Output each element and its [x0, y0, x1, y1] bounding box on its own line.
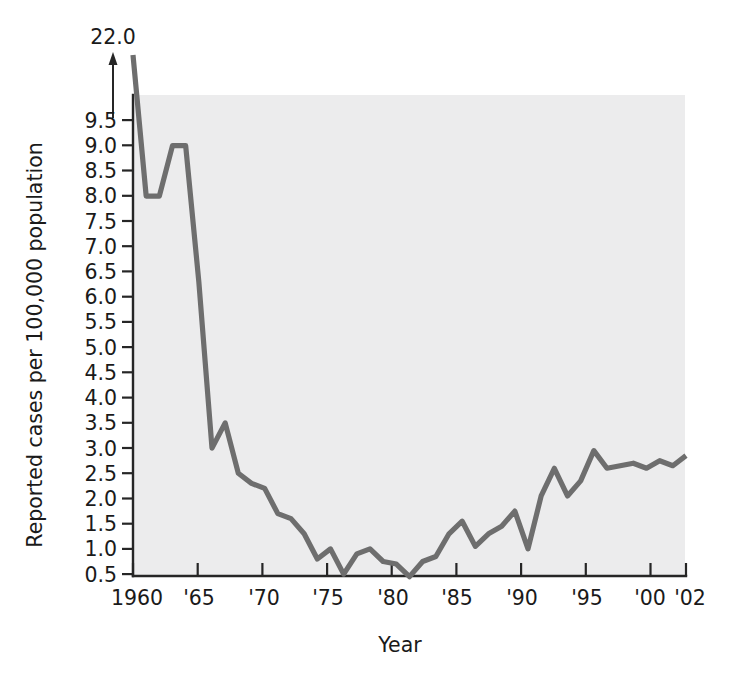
- y-tick-label: 1.5: [84, 512, 117, 536]
- y-tick-label: 0.5: [84, 563, 117, 587]
- x-tick-label: '02: [674, 586, 706, 610]
- y-tick-label: 2.5: [84, 462, 117, 486]
- y-tick-label: 3.5: [84, 411, 117, 435]
- axis-break-value-label: 22.0: [90, 25, 136, 49]
- y-axis-tick-labels: 9.5 9.0 8.5 8.0 7.5 7.0 6.5 6.0 5.5 5.0 …: [84, 109, 117, 587]
- plot-panel-background: [133, 95, 685, 575]
- x-tick-label: 1960: [111, 586, 163, 610]
- x-tick-label: '65: [183, 586, 215, 610]
- y-tick-label: 6.0: [84, 285, 117, 309]
- y-tick-label: 6.5: [84, 260, 117, 284]
- y-tick-label: 7.5: [84, 210, 117, 234]
- y-tick-label: 2.0: [84, 487, 117, 511]
- y-tick-label: 8.5: [84, 159, 117, 183]
- x-tick-label: '70: [248, 586, 280, 610]
- y-tick-label: 9.5: [84, 109, 117, 133]
- y-tick-label: 8.0: [84, 184, 117, 208]
- x-tick-label: '90: [506, 586, 538, 610]
- y-axis-title: Reported cases per 100,000 population: [23, 142, 47, 547]
- x-tick-label: '95: [571, 586, 603, 610]
- y-tick-label: 7.0: [84, 235, 117, 259]
- x-tick-label: '75: [312, 586, 344, 610]
- y-tick-label: 5.5: [84, 310, 117, 334]
- y-tick-label: 4.0: [84, 386, 117, 410]
- y-tick-label: 9.0: [84, 134, 117, 158]
- line-chart-svg: 22.0 9.5 9.0 8.5: [0, 0, 734, 681]
- chart-figure: 22.0 9.5 9.0 8.5: [0, 0, 734, 681]
- x-tick-label: '85: [441, 586, 473, 610]
- x-tick-label: '00: [634, 586, 666, 610]
- y-tick-label: 4.5: [84, 361, 117, 385]
- y-tick-label: 1.0: [84, 537, 117, 561]
- x-tick-label: '80: [377, 586, 409, 610]
- y-tick-label: 5.0: [84, 336, 117, 360]
- x-axis-title: Year: [377, 633, 422, 657]
- y-tick-label: 3.0: [84, 437, 117, 461]
